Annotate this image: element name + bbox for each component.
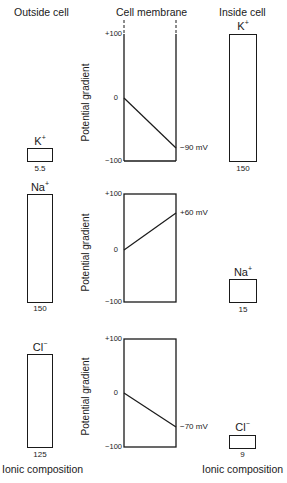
potential-value-cl: −70 mV xyxy=(180,422,208,431)
footer-ionic-composition-inside: Ionic composition xyxy=(202,463,283,475)
bar-inside-cl xyxy=(229,435,256,449)
conc-inside-cl: 9 xyxy=(229,450,256,459)
footer-ionic-composition-outside: Ionic composition xyxy=(2,463,83,475)
potential-line-cl xyxy=(124,393,176,427)
potential-panel-cl xyxy=(0,0,287,483)
ion-label-inside-cl: Cl− xyxy=(229,421,256,433)
